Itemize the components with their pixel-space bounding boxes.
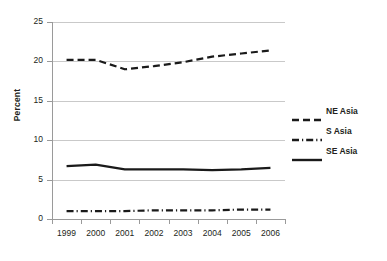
x-tick-mark [227,219,228,224]
y-tick-label: 10 [17,134,43,144]
legend-swatch-icon [292,150,322,158]
x-tick-mark [139,219,140,224]
chart-legend: NE AsiaS AsiaSE Asia [292,105,387,165]
line-chart: Percent 0510152025 199920002001200220032… [0,0,387,261]
legend-item-s-asia[interactable]: S Asia [292,125,387,145]
legend-swatch-icon [292,110,322,118]
series-line-s-asia [67,210,271,212]
y-tick-label: 15 [17,95,43,105]
series-line-ne-asia [67,50,271,69]
x-tick-label: 2006 [250,228,290,238]
x-tick-mark [110,219,111,224]
series-line-se-asia [67,165,271,171]
legend-label: SE Asia [326,146,357,156]
legend-swatch-icon [292,130,322,138]
legend-item-se-asia[interactable]: SE Asia [292,145,387,165]
x-tick-mark [285,219,286,224]
x-tick-mark [198,219,199,224]
y-tick-label: 5 [17,174,43,184]
legend-item-ne-asia[interactable]: NE Asia [292,105,387,125]
x-tick-mark [169,219,170,224]
x-tick-mark [256,219,257,224]
legend-label: NE Asia [326,106,358,116]
y-axis-title: Percent [12,70,22,140]
series-plot-area [52,22,285,219]
legend-label: S Asia [326,126,352,136]
x-tick-mark [52,219,53,224]
y-tick-label: 20 [17,55,43,65]
y-tick-label: 25 [17,16,43,26]
x-tick-mark [81,219,82,224]
y-tick-label: 0 [17,213,43,223]
